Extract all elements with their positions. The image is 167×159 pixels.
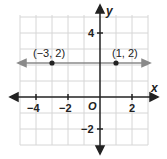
y-axis-label: y (105, 4, 114, 18)
y-tick-label: −2 (81, 123, 94, 135)
origin-label: O (88, 100, 97, 112)
y-tick-label: 4 (88, 27, 95, 39)
coordinate-plane: y x O −4 −2 2 4 −2 (−3, 2) (1, 2) (0, 0, 167, 159)
point-marker (49, 60, 54, 65)
point-marker (113, 60, 118, 65)
y-axis (96, 5, 104, 154)
point-label: (−3, 2) (33, 47, 65, 59)
x-tick-label: −4 (27, 102, 40, 114)
x-tick-label: −2 (59, 102, 72, 114)
point-label: (1, 2) (112, 47, 138, 59)
x-tick-label: 2 (129, 102, 135, 114)
x-axis-label: x (150, 81, 159, 95)
